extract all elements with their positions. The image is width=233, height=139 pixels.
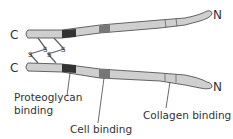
bottom-n-terminus: N <box>213 80 222 94</box>
cell-binding-leader <box>98 78 104 123</box>
fibronectin-dimer-diagram: C N C N S S S S Proteoglycan binding Cel… <box>0 0 233 139</box>
sulfur-label: S <box>28 51 33 59</box>
top-strand-tube <box>26 11 212 38</box>
top-cell-binding-band <box>99 25 110 34</box>
top-c-terminus: C <box>10 28 18 42</box>
top-n-terminus: N <box>213 8 222 22</box>
bottom-c-terminus: C <box>10 61 18 75</box>
proteoglycan-binding-label-line2: binding <box>14 104 53 116</box>
collagen-binding-label: Collagen binding <box>143 109 231 121</box>
top-proteoglycan-band <box>62 29 76 38</box>
proteoglycan-binding-label-line1: Proteoglycan <box>14 91 82 103</box>
top-strand: C N <box>10 8 222 42</box>
bottom-cell-binding-band <box>99 69 110 79</box>
cell-binding-label: Cell binding <box>70 123 132 135</box>
sulfur-label: S <box>61 46 66 54</box>
collagen-binding-leader <box>166 82 170 108</box>
bottom-strand-tube <box>26 63 212 89</box>
sulfur-label: S <box>47 51 52 59</box>
bottom-proteoglycan-band <box>62 64 76 73</box>
bottom-strand: C N <box>10 61 222 94</box>
